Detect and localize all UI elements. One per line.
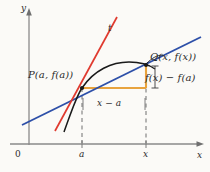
diagram-canvas (0, 0, 210, 172)
run-label: x − a (97, 99, 121, 108)
rise-label: f(x) − f(a) (145, 73, 195, 83)
function-curve (64, 62, 155, 132)
point-p-marker (80, 86, 84, 90)
point-q-label: Q(x, f(x)) (150, 52, 196, 62)
tangent-secant-diagram: y x 0 a x t P(a, f(a)) Q(x, f(x)) f(x) −… (0, 0, 210, 172)
point-p-label: P(a, f(a)) (28, 70, 73, 80)
y-axis-label: y (21, 4, 26, 13)
tangent-line-label: t (108, 24, 112, 33)
tick-label-a: a (79, 150, 84, 159)
y-axis-arrow-icon (26, 8, 32, 16)
origin-label: 0 (15, 150, 21, 159)
x-axis-arrow-icon (197, 141, 205, 147)
tick-label-x: x (143, 150, 148, 159)
x-axis-label: x (197, 151, 202, 160)
